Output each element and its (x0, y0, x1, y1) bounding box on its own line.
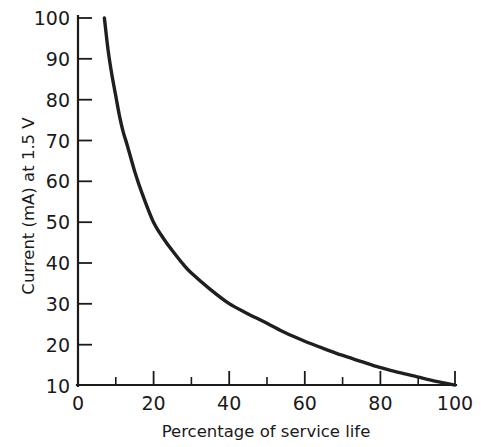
y-tick-label-80: 80 (46, 89, 70, 111)
chart-figure: 100 90 80 70 60 50 40 30 20 10 (0, 0, 481, 447)
y-tick-label-40: 40 (46, 252, 70, 274)
y-tick-label-20: 20 (46, 334, 70, 356)
chart-background (0, 0, 481, 447)
y-tick-label-70: 70 (46, 130, 70, 152)
x-tick-label-0: 0 (72, 392, 84, 414)
x-tick-label-80: 80 (368, 392, 392, 414)
chart-svg: 100 90 80 70 60 50 40 30 20 10 (0, 0, 481, 447)
y-tick-label-10: 10 (46, 375, 70, 397)
y-axis-title: Current (mA) at 1.5 V (19, 117, 38, 295)
x-tick-label-100: 100 (437, 392, 473, 414)
y-tick-label-30: 30 (46, 293, 70, 315)
x-tick-label-20: 20 (142, 392, 166, 414)
y-tick-label-60: 60 (46, 170, 70, 192)
x-axis-title: Percentage of service life (162, 422, 371, 441)
x-tick-label-60: 60 (293, 392, 317, 414)
y-tick-label-90: 90 (46, 48, 70, 70)
x-tick-label-40: 40 (217, 392, 241, 414)
y-tick-label-100: 100 (34, 7, 70, 29)
y-tick-label-50: 50 (46, 211, 70, 233)
